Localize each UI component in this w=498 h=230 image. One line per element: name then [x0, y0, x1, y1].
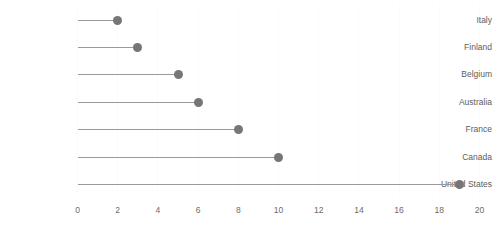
value-marker-dot[interactable]	[455, 180, 464, 189]
value-marker-dot[interactable]	[234, 125, 243, 134]
value-marker-dot[interactable]	[113, 16, 122, 25]
category-label: Belgium	[424, 66, 498, 82]
lollipop-row: Belgium	[0, 66, 498, 82]
x-tick-label: 12	[307, 204, 331, 216]
stem-line	[78, 74, 179, 75]
x-tick-label: 2	[106, 204, 130, 216]
lollipop-row: France	[0, 121, 498, 137]
category-label: Finland	[424, 39, 498, 55]
lollipop-row: Australia	[0, 94, 498, 110]
stem-line	[78, 157, 279, 158]
lollipop-row: United States	[0, 176, 498, 192]
x-tick-label: 20	[468, 204, 492, 216]
x-tick-label: 18	[427, 204, 451, 216]
value-marker-dot[interactable]	[274, 153, 283, 162]
x-tick-label: 8	[226, 204, 250, 216]
category-label: Italy	[424, 12, 498, 28]
lollipop-chart: ItalyFinlandBelgiumAustraliaFranceCanada…	[0, 0, 498, 230]
x-tick-label: 6	[186, 204, 210, 216]
x-tick-label: 14	[347, 204, 371, 216]
x-tick-label: 4	[146, 204, 170, 216]
stem-line	[78, 102, 199, 103]
value-marker-dot[interactable]	[174, 70, 183, 79]
x-tick-label: 10	[267, 204, 291, 216]
category-label: Australia	[424, 94, 498, 110]
value-marker-dot[interactable]	[133, 43, 142, 52]
stem-line	[78, 129, 239, 130]
lollipop-row: Italy	[0, 12, 498, 28]
stem-line	[78, 47, 138, 48]
x-tick-label: 16	[387, 204, 411, 216]
stem-line	[78, 184, 460, 185]
lollipop-row: Finland	[0, 39, 498, 55]
category-label: France	[424, 121, 498, 137]
category-label: Canada	[424, 149, 498, 165]
plot-area: ItalyFinlandBelgiumAustraliaFranceCanada…	[0, 0, 498, 230]
x-tick-label: 0	[66, 204, 90, 216]
lollipop-row: Canada	[0, 149, 498, 165]
stem-line	[78, 20, 118, 21]
value-marker-dot[interactable]	[194, 98, 203, 107]
